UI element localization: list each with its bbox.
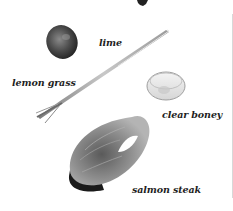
honey-bowl-icon [147,72,185,100]
label-clear-honey: clear boney [162,109,222,120]
ingredients-illustration: lime lemon grass clear boney salmon stea… [0,0,233,211]
lime-icon [42,21,83,64]
illustration-artwork [0,0,233,211]
label-lime: lime [99,37,122,48]
label-salmon-steak: salmon steak [132,184,201,195]
salmon-steak-icon [69,116,150,192]
garnish-fragment-icon [137,0,148,6]
page-edge-divider [232,14,233,198]
label-lemon-grass: lemon grass [12,77,76,88]
